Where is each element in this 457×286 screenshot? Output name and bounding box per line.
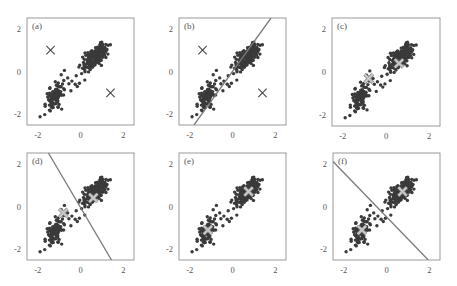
subplot-f: (f)-20220-2 [320,153,440,275]
y-tick-label: -2 [166,244,173,254]
x-tick-label: 0 [78,130,82,140]
y-tick-label: -2 [320,244,327,254]
panel-label: (b) [184,21,195,31]
plot-frame [27,18,134,125]
x-tick-label: 2 [121,265,125,275]
y-tick-label: -2 [14,109,21,119]
y-tick-label: 2 [323,159,327,169]
x-tick-label: 2 [273,130,277,140]
panel-label: (a) [32,21,42,31]
y-tick-label: 0 [323,202,327,212]
kmeans-figure: (a)-20220-2(b)-20220-2(c)-20220-2(d)-202… [0,0,457,286]
y-tick-label: -2 [166,109,173,119]
subplot-b: (b)-20220-2 [166,18,286,140]
panel-label: (c) [337,21,347,31]
subplot-c: (c)-20220-2 [319,18,440,141]
x-tick-label: 0 [384,265,388,275]
x-tick-label: 2 [121,130,125,140]
plot-frame [179,153,286,260]
y-tick-label: 0 [17,202,21,212]
figure-canvas: (a)-20220-2(b)-20220-2(c)-20220-2(d)-202… [0,0,457,286]
x-tick-label: 2 [427,265,431,275]
y-tick-label: 2 [17,159,21,169]
panel-label: (f) [338,156,347,166]
plot-frame [332,18,440,126]
x-tick-label: -2 [186,265,193,275]
y-tick-label: 2 [17,24,21,34]
x-tick-label: 0 [384,131,388,141]
x-tick-label: 0 [230,130,234,140]
subplot-a: (a)-20220-2 [14,18,134,140]
x-tick-label: 2 [427,131,431,141]
x-tick-label: 0 [230,265,234,275]
x-tick-label: -2 [34,265,41,275]
y-tick-label: 0 [169,67,173,77]
x-tick-label: -2 [339,131,346,141]
x-tick-label: 2 [273,265,277,275]
y-tick-label: 2 [322,24,326,34]
y-tick-label: 0 [17,67,21,77]
y-tick-label: 0 [322,67,326,77]
y-tick-label: -2 [14,244,21,254]
panel-label: (d) [32,156,43,166]
x-tick-label: -2 [186,130,193,140]
plot-frame [333,153,440,260]
y-tick-label: 2 [169,24,173,34]
panel-label: (e) [184,156,194,166]
x-tick-label: -2 [34,130,41,140]
subplot-e: (e)-20220-2 [166,153,286,275]
y-tick-label: -2 [319,110,326,120]
x-tick-label: 0 [78,265,82,275]
subplot-d: (d)-20220-2 [14,153,134,275]
y-tick-label: 0 [169,202,173,212]
x-tick-label: -2 [340,265,347,275]
y-tick-label: 2 [169,159,173,169]
